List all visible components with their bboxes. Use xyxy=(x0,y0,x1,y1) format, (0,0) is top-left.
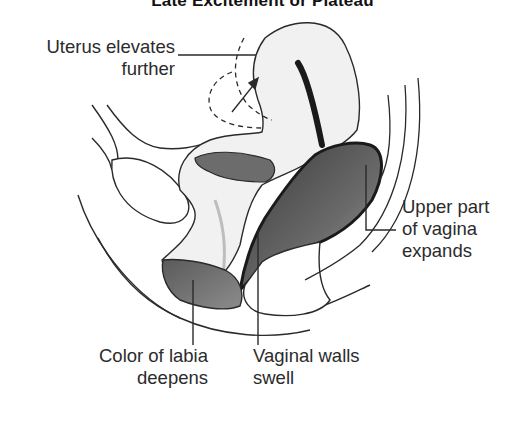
label-labia: Color of labia deepens xyxy=(60,345,208,389)
label-vaginal-walls: Vaginal walls swell xyxy=(253,345,360,389)
elevation-arrow-icon xyxy=(232,78,258,112)
bladder-shape xyxy=(112,158,189,223)
label-uterus: Uterus elevates further xyxy=(20,36,175,80)
label-upper-vagina: Upper part of vagina expands xyxy=(402,196,489,262)
labia-shape xyxy=(162,259,242,308)
